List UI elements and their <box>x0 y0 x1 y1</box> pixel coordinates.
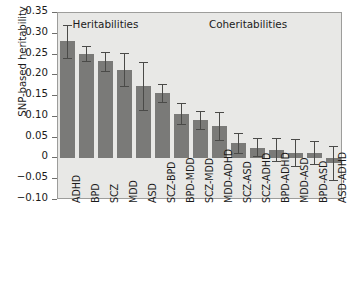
error-cap-upper <box>272 138 281 139</box>
y-tick-label: −0.05 <box>17 171 48 182</box>
x-tick-label: BPD <box>90 184 101 203</box>
x-tick-label: MDD <box>128 180 139 203</box>
error-bar <box>276 138 277 160</box>
error-bar <box>86 46 87 61</box>
error-bar <box>124 53 125 86</box>
error-cap-upper <box>101 52 110 53</box>
error-bar <box>143 62 144 110</box>
x-tick-label: SCZ <box>109 184 120 203</box>
error-cap-upper <box>139 62 148 63</box>
error-bar <box>333 146 334 181</box>
error-bar <box>105 52 106 71</box>
y-tick-label: 0.35 <box>25 5 48 16</box>
error-bar <box>295 139 296 165</box>
x-tick-label: ADHD <box>71 175 82 203</box>
x-tick-label: BPD-MDD <box>185 157 196 203</box>
error-cap-upper <box>120 53 129 54</box>
y-tick-label: 0.10 <box>25 109 48 120</box>
x-tick-label: ASD <box>147 183 158 203</box>
error-bar <box>219 112 220 140</box>
error-cap-upper <box>291 139 300 140</box>
x-tick-label: SCZ-ASD <box>242 161 253 203</box>
x-tick-label: SCZ-BPD <box>166 162 177 203</box>
error-cap-upper <box>177 103 186 104</box>
y-tick-label: 0.30 <box>25 26 48 37</box>
error-cap-upper <box>329 146 338 147</box>
y-tick-mark <box>52 199 57 200</box>
error-cap-lower <box>82 61 91 62</box>
error-cap-lower <box>215 140 224 141</box>
error-cap-upper <box>63 25 72 26</box>
error-cap-lower <box>177 124 186 125</box>
y-tick-label: −0.10 <box>17 192 48 203</box>
chart-figure: SNP-based heritability 0.350.300.250.200… <box>0 0 352 302</box>
y-tick-label: 0.25 <box>25 47 48 58</box>
error-cap-upper <box>196 111 205 112</box>
error-cap-lower <box>139 110 148 111</box>
x-tick-label: MDD-ADHD <box>223 149 234 203</box>
error-cap-upper <box>310 141 319 142</box>
error-cap-lower <box>63 58 72 59</box>
error-cap-lower <box>101 71 110 72</box>
error-bar <box>67 25 68 58</box>
error-bar <box>162 84 163 101</box>
y-tick-label: 0.15 <box>25 88 48 99</box>
error-cap-lower <box>234 153 243 154</box>
bar <box>155 93 170 158</box>
y-tick-label: 0 <box>42 150 48 161</box>
x-tick-label: MDD-ASD <box>299 157 310 203</box>
y-tick-label: 0.20 <box>25 67 48 78</box>
error-cap-upper <box>234 133 243 134</box>
bar <box>98 61 113 158</box>
error-bar <box>181 103 182 124</box>
error-cap-upper <box>158 84 167 85</box>
x-tick-label: SCZ-ADHD <box>261 153 272 203</box>
error-cap-lower <box>196 129 205 130</box>
error-cap-upper <box>253 138 262 139</box>
error-bar <box>238 133 239 153</box>
bar <box>79 54 94 159</box>
section-header: Heritabilities <box>73 18 139 30</box>
x-tick-label: BPD-ASD <box>318 161 329 203</box>
error-cap-lower <box>120 86 129 87</box>
x-tick-label: ASD-ADHD <box>337 152 348 203</box>
section-header: Coheritabilities <box>209 18 287 30</box>
error-cap-upper <box>215 112 224 113</box>
y-tick-label: 0.05 <box>25 130 48 141</box>
error-bar <box>257 138 258 156</box>
error-cap-upper <box>82 46 91 47</box>
error-bar <box>314 141 315 164</box>
x-tick-label: BPD-ADHD <box>280 152 291 203</box>
error-bar <box>200 111 201 129</box>
x-tick-label: SCZ-MDD <box>204 158 215 203</box>
error-cap-lower <box>158 102 167 103</box>
